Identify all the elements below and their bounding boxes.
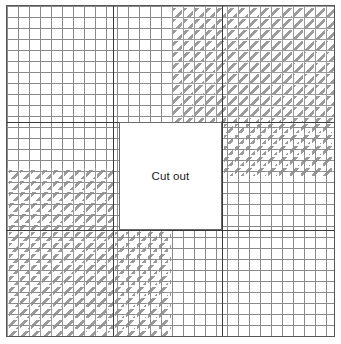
hatched-region-bottom-middle [113, 230, 171, 337]
hatched-region-middle-right [222, 122, 335, 176]
heavy-rule-vertical-left [113, 6, 114, 336]
heavy-rule-horizontal-lower [7, 230, 334, 231]
hatched-region-top-right [171, 6, 335, 122]
hatched-region-bottom-left [7, 230, 113, 337]
hatched-region-middle-left [7, 168, 113, 230]
figure-canvas: Cut out [0, 0, 341, 344]
cut-out-region: Cut out [119, 122, 222, 230]
cut-out-label: Cut out [152, 170, 190, 182]
heavy-rule-vertical-right [222, 6, 223, 336]
drawing-frame: Cut out [6, 5, 335, 337]
